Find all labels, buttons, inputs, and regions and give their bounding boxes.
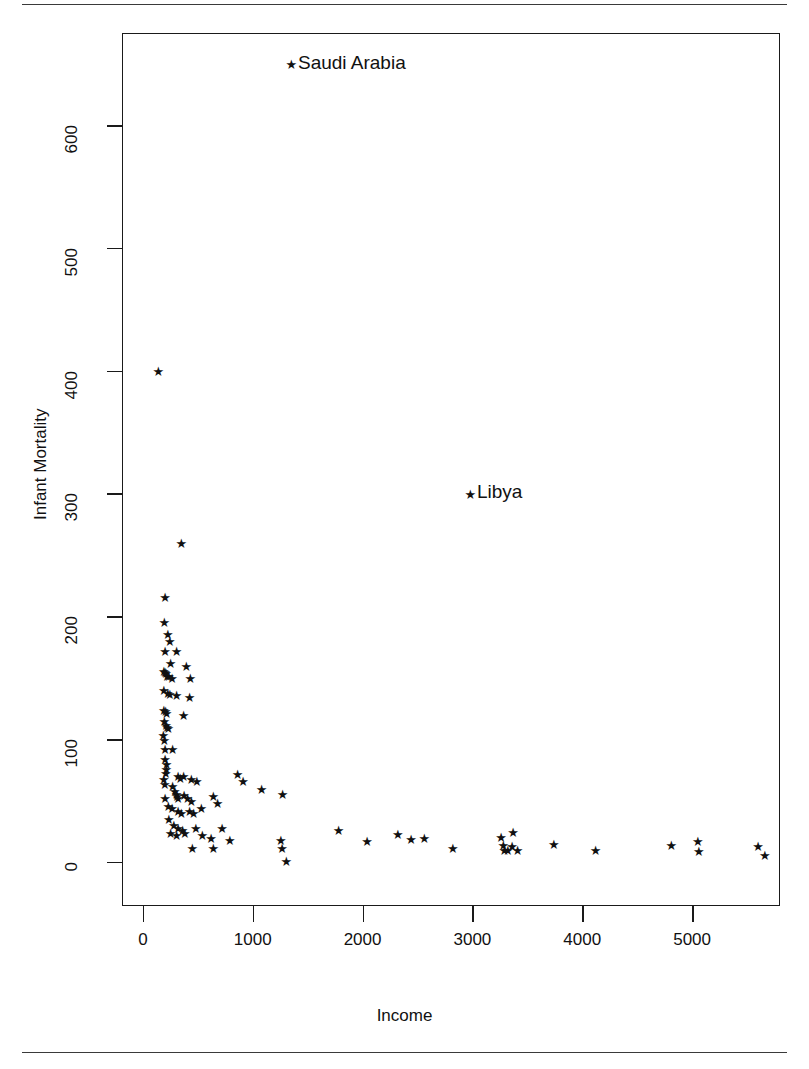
data-point [184,807,193,816]
y-tick-label: 500 [62,248,82,276]
data-point [162,689,171,698]
data-point [171,831,180,840]
y-tick [107,248,122,250]
x-tick-label: 1000 [234,930,272,950]
data-point [190,824,199,833]
data-point [165,659,174,668]
data-point [171,792,180,801]
data-point [186,775,195,784]
data-point [181,662,190,671]
data-point [163,672,172,681]
data-point [166,674,175,683]
data-point [759,851,768,860]
data-point [275,836,284,845]
y-tick [107,862,122,864]
data-point [256,785,265,794]
data-point [277,790,286,799]
data-point [159,794,168,803]
data-point [590,846,599,855]
y-axis-title: Infant Mortality [31,409,51,521]
data-point [164,637,173,646]
data-point [162,630,171,639]
data-point [195,804,204,813]
data-point [159,736,168,745]
y-tick [107,125,122,127]
x-tick [692,906,694,922]
data-point [186,797,195,806]
data-point [178,791,187,800]
data-point [159,593,168,602]
data-point [495,833,504,842]
data-point [172,794,181,803]
data-point [666,841,675,850]
data-point [184,674,193,683]
point-label-libya: Libya [477,481,522,503]
data-point [178,711,187,720]
data-point [237,777,246,786]
y-tick-label: 0 [62,862,82,871]
point-label-saudi-arabia: Saudi Arabia [298,52,406,74]
data-point [168,821,177,830]
data-point [160,765,169,774]
data-point [159,755,168,764]
data-point [161,723,170,732]
data-point [187,844,196,853]
y-tick [107,493,122,495]
x-tick-label: 3000 [453,930,491,950]
data-point [207,844,216,853]
x-tick [363,906,365,922]
data-point [158,667,167,676]
data-point [693,847,702,856]
data-point [692,837,701,846]
y-tick-label: 400 [62,371,82,399]
data-point [160,721,169,730]
data-point [171,647,180,656]
data-point [276,844,285,853]
data-point [176,809,185,818]
data-point [158,706,167,715]
data-point [159,780,168,789]
data-point [164,690,173,699]
y-tick-label: 600 [62,125,82,153]
data-point [167,745,176,754]
x-tick-label: 0 [138,930,147,950]
data-point [169,787,178,796]
data-point [171,790,180,799]
data-point [177,826,186,835]
data-point [179,829,188,838]
y-tick [107,371,122,373]
data-point [159,668,168,677]
data-point [548,840,557,849]
data-point [160,707,169,716]
data-point [161,760,170,769]
data-point [153,367,162,376]
data-point [224,836,233,845]
data-point [333,826,342,835]
data-point [159,717,168,726]
data-point [281,857,290,866]
data-point [159,618,168,627]
data-point [159,745,168,754]
data-point [166,804,175,813]
x-tick [472,906,474,922]
data-point [502,846,511,855]
page-rule-top [22,4,787,5]
x-tick-label: 2000 [344,930,382,950]
data-point [162,802,171,811]
data-point [172,772,181,781]
data-point [160,769,169,778]
data-point [159,647,168,656]
data-point [163,815,172,824]
data-point [178,772,187,781]
data-point [506,842,515,851]
data-point [161,672,170,681]
plot-area: Saudi ArabiaLibya [123,34,779,905]
data-point [158,686,167,695]
data-point [172,824,181,833]
data-point [512,846,521,855]
x-tick-label: 5000 [673,930,711,950]
data-point [182,794,191,803]
x-tick [582,906,584,922]
data-point [162,724,171,733]
data-point [361,837,370,846]
